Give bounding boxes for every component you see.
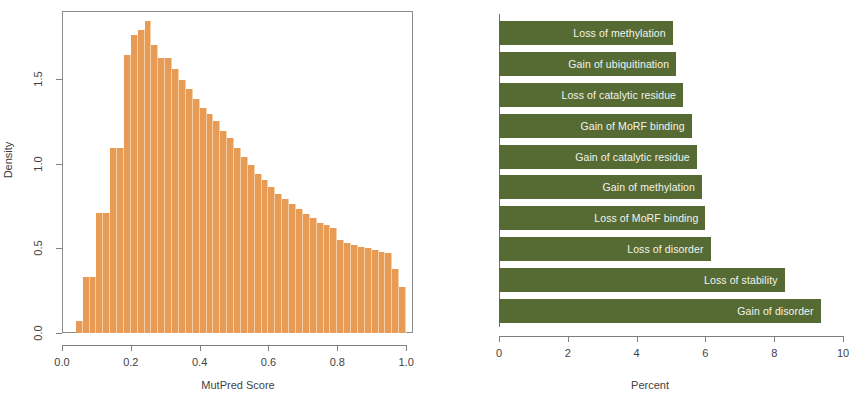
histogram-bar [131,35,138,333]
bar-chart-bars: Loss of methylationGain of ubiquitinatio… [440,0,854,394]
bar-chart-x-tick-label: 0 [496,347,502,359]
histogram-x-tick [268,345,269,351]
histogram-x-tick [131,345,132,351]
histogram-x-tick-label: 1.0 [398,356,413,368]
bar-chart-x-tick-label: 10 [837,347,849,359]
histogram-bars [62,11,413,333]
histogram-bar [310,218,317,333]
bar-chart-bar-label: Loss of methylation [573,27,672,39]
histogram-x-tick-label: 0.8 [330,356,345,368]
histogram-bar [193,99,200,333]
histogram-x-tick-label: 0.6 [261,356,276,368]
bar-chart-bar: Gain of ubiquitination [499,52,676,76]
histogram-bar [103,213,110,333]
bar-chart-bar-label: Gain of disorder [737,305,820,317]
histogram-bar [282,199,289,333]
histogram-bar [255,174,262,333]
histogram-bar [289,204,296,333]
histogram-bar [96,213,103,333]
histogram-bar [76,321,83,333]
bar-chart-bar: Loss of methylation [499,21,673,45]
bar-chart-x-tick-label: 8 [771,347,777,359]
bar-chart-bar-label: Loss of MoRF binding [594,212,705,224]
bar-chart-x-tick [705,336,706,342]
histogram-y-tick-label: 1.5 [32,71,44,86]
histogram-bar [83,277,90,333]
bar-chart-bar-label: Gain of ubiquitination [568,58,676,70]
histogram-bar [151,45,158,333]
histogram-bar [262,180,269,333]
bar-chart-bar: Loss of catalytic residue [499,83,683,107]
bar-chart-bar-label: Gain of methylation [603,181,702,193]
bar-chart-x-tick-label: 4 [634,347,640,359]
histogram-y-tick-label: 0.5 [32,241,44,256]
histogram-bar [158,58,165,333]
histogram-x-tick [62,345,63,351]
histogram-y-tick-label: 0.0 [32,325,44,340]
histogram-bar [234,148,241,333]
histogram-y-tick [56,248,62,249]
bar-chart-bar: Loss of MoRF binding [499,206,705,230]
histogram-bar [275,194,282,333]
histogram-y-tick [56,79,62,80]
histogram-bar [138,30,145,333]
bar-chart-x-tick [637,336,638,342]
bar-chart-bar: Loss of disorder [499,237,711,261]
histogram-x-tick [406,345,407,351]
histogram-x-tick-label: 0.0 [54,356,69,368]
percent-bar-chart-panel: Loss of methylationGain of ubiquitinatio… [440,0,854,394]
bar-chart-bar: Gain of MoRF binding [499,114,692,138]
histogram-bar [241,157,248,333]
bar-chart-x-tick-label: 6 [702,347,708,359]
histogram-x-tick-label: 0.2 [123,356,138,368]
bar-chart-bar: Gain of catalytic residue [499,145,697,169]
histogram-bar [351,245,358,333]
bar-chart-bar: Gain of disorder [499,299,821,323]
bar-chart-bar-label: Gain of catalytic residue [575,151,697,163]
histogram-bar [392,269,399,333]
bar-chart-x-axis-title: Percent [631,379,669,391]
histogram-x-axis-line [62,345,406,346]
histogram-bar [330,228,337,333]
bar-chart-x-tick [499,336,500,342]
histogram-bar [317,223,324,333]
histogram-y-axis-title: Density [2,142,14,179]
bar-chart-x-tick [568,336,569,342]
histogram-bar [213,121,220,333]
bar-chart-x-tick [843,336,844,342]
bar-chart-bar: Loss of stability [499,268,785,292]
histogram-bar [220,131,227,333]
bar-chart-bar-label: Loss of stability [704,274,784,286]
histogram-bar [90,277,97,333]
histogram-bar [145,21,152,333]
histogram-bar [179,80,186,333]
histogram-bar [200,108,207,333]
histogram-bar [268,187,275,333]
histogram-bar [344,243,351,333]
histogram-bar [207,114,214,333]
bar-chart-bar-label: Gain of MoRF binding [580,120,691,132]
histogram-bar [372,250,379,333]
histogram-x-axis-title: MutPred Score [201,379,274,391]
histogram-bar [248,165,255,333]
histogram-bar [165,58,172,333]
bar-chart-bar-label: Loss of disorder [627,243,710,255]
histogram-bar [186,89,193,333]
histogram-bar [337,240,344,333]
histogram-bar [227,138,234,333]
histogram-panel: 0.00.51.01.5 Density 0.00.20.40.60.81.0 … [0,0,440,394]
histogram-bar [117,148,124,333]
bar-chart-x-tick-label: 2 [565,347,571,359]
bar-chart-bar: Gain of methylation [499,175,702,199]
histogram-bar [110,148,117,333]
histogram-bar [303,214,310,333]
histogram-bar [365,248,372,333]
histogram-bar [358,247,365,333]
histogram-y-tick-label: 1.0 [32,156,44,171]
histogram-bar [379,252,386,333]
histogram-y-tick [56,164,62,165]
bar-chart-x-axis-line [499,336,843,337]
histogram-x-tick [337,345,338,351]
histogram-bar [399,287,406,333]
histogram-bar [324,225,331,333]
